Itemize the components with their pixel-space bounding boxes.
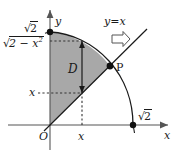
upper-bound-radicand: 2 − x: [9, 37, 38, 50]
x-intercept-value: 2: [144, 109, 152, 123]
upper-bound-expression: 2 − x2: [9, 36, 44, 50]
line-equation-label: y=x: [104, 16, 126, 27]
y-axis-label: y: [55, 16, 61, 27]
point-y-intercept: [47, 29, 53, 35]
callout-arrow-icon: [112, 32, 130, 47]
y-intercept-label: √2: [24, 23, 38, 34]
point-x-intercept: [130, 122, 136, 128]
upper-bound-exponent: 2: [38, 36, 42, 44]
point-p-marker: [107, 63, 114, 70]
upper-bound-label: √2 − x2: [3, 38, 44, 49]
y-intercept-value: 2: [30, 21, 38, 35]
y-axis-arrowhead: [47, 10, 54, 18]
math-figure: √2 √2 − x2 y x O D P y=x x x √2: [0, 0, 183, 155]
x-axis-arrowhead: [160, 122, 168, 129]
region-d-label: D: [68, 63, 78, 75]
x-intercept-label: √2: [138, 111, 152, 122]
point-p-label: P: [116, 62, 123, 73]
left-tick-label-x: x: [29, 87, 35, 98]
x-axis-label: x: [164, 130, 170, 141]
origin-label: O: [39, 131, 48, 142]
bottom-tick-label-x: x: [78, 131, 84, 142]
